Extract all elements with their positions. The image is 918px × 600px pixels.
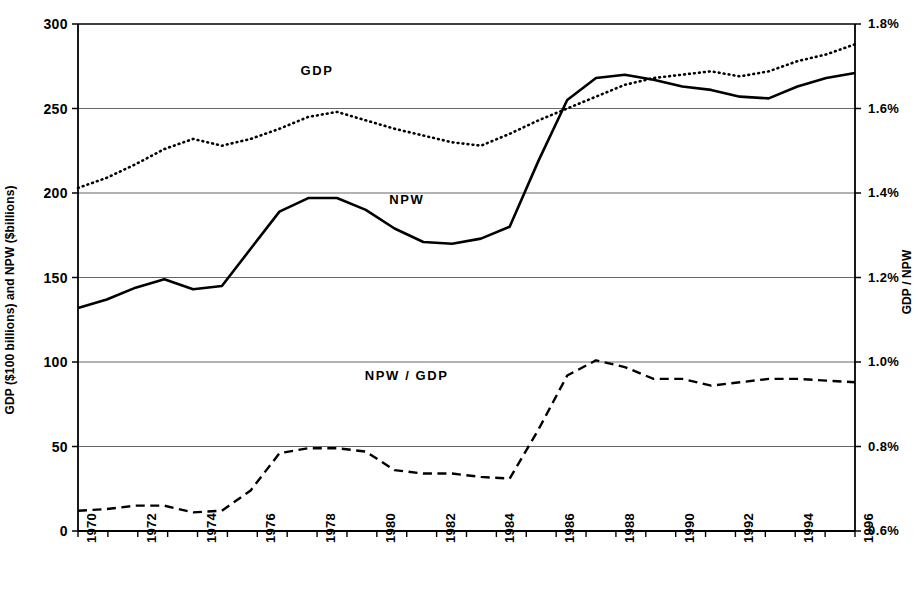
chart-figure: GDP ($100 billions) and NPW ($billions) …: [0, 0, 918, 600]
x-tick-label: 1984: [502, 513, 517, 543]
series-line-gdp: [78, 44, 855, 188]
x-tick-label: 1970: [84, 513, 99, 543]
y-tick-label-right: 1.6%: [868, 102, 916, 115]
x-tick-label: 1994: [801, 513, 816, 543]
y-tick-label-left: 250: [18, 102, 68, 116]
y-tick-label-right: 1.2%: [868, 271, 916, 284]
y-axis-left-title: GDP ($100 billions) and NPW ($billions): [0, 0, 20, 600]
y-tick-label-left: 100: [18, 355, 68, 369]
y-axis-right-title: GDP / NPW: [896, 0, 918, 600]
y-tick-label-left: 150: [18, 271, 68, 285]
y-tick-label-right: 1.0%: [868, 355, 916, 368]
x-tick-label: 1996: [861, 513, 876, 543]
x-tick-label: 1988: [622, 513, 637, 543]
x-tick-label: 1974: [204, 513, 219, 543]
y-axis-left-title-text: GDP ($100 billions) and NPW ($billions): [3, 185, 17, 414]
series-line-npw-gdp: [78, 360, 855, 512]
series-label-gdp: GDP: [301, 63, 334, 78]
x-tick-label: 1978: [323, 513, 338, 543]
x-tick-label: 1986: [562, 513, 577, 543]
tick-marks: [72, 24, 861, 537]
x-tick-label: 1972: [144, 513, 159, 543]
x-tick-label: 1992: [741, 513, 756, 543]
series-lines: [78, 44, 855, 512]
y-tick-label-left: 200: [18, 186, 68, 200]
x-tick-label: 1980: [383, 513, 398, 543]
y-tick-label-left: 50: [18, 440, 68, 454]
x-tick-label: 1976: [263, 513, 278, 543]
x-tick-label: 1990: [682, 513, 697, 543]
y-tick-label-right: 1.8%: [868, 17, 916, 30]
plot-area: [0, 0, 918, 600]
y-tick-label-right: 1.4%: [868, 186, 916, 199]
y-tick-label-left: 300: [18, 17, 68, 31]
gridlines: [78, 109, 855, 447]
y-tick-label-left: 0: [18, 524, 68, 538]
series-label-npw-gdp: NPW / GDP: [365, 368, 449, 383]
y-tick-label-right: 0.8%: [868, 440, 916, 453]
x-tick-label: 1982: [443, 513, 458, 543]
series-label-npw: NPW: [389, 192, 424, 207]
